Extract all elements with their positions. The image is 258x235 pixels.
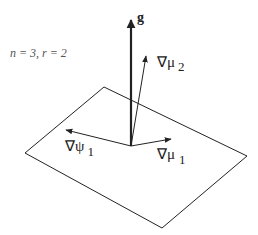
vector-grad-mu1 [131, 139, 171, 146]
label-grad-psi1: ∇ψ1 [64, 138, 94, 159]
label-grad-mu2-main: ∇μ [156, 54, 175, 70]
label-grad-mu1-main: ∇μ [156, 146, 175, 162]
tangent-plane [25, 87, 247, 228]
label-g: g [137, 10, 144, 25]
label-grad-psi1-main: ∇ψ [64, 138, 85, 154]
diagram-canvas: n = 3, r = 2 g ∇μ2 ∇ψ1 ∇μ1 [0, 0, 258, 235]
label-grad-mu2: ∇μ2 [156, 54, 185, 74]
label-grad-mu1: ∇μ1 [156, 146, 186, 167]
label-grad-mu1-sub: 1 [179, 152, 186, 167]
label-grad-mu2-sub: 2 [178, 59, 185, 74]
annotation-n-r: n = 3, r = 2 [10, 46, 67, 60]
label-grad-psi1-sub: 1 [87, 144, 94, 159]
